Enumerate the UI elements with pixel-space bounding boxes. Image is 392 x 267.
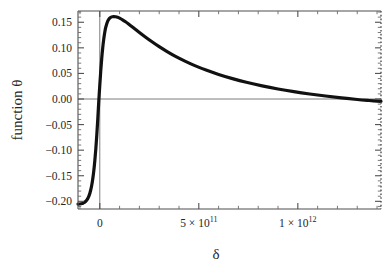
x-axis-tick-labels: 05 × 10111 × 1012 bbox=[97, 215, 317, 229]
x-axis-title: δ bbox=[212, 246, 219, 262]
x-tick-label: 1 × 1012 bbox=[279, 215, 317, 229]
x-tick-label: 0 bbox=[97, 217, 103, 229]
theta-function-plot: 0.150.100.050.00−0.05−0.10−0.15−0.20 05 … bbox=[0, 0, 392, 267]
plot-background bbox=[78, 11, 381, 209]
y-tick-label: −0.10 bbox=[45, 144, 72, 156]
chart-figure: 0.150.100.050.00−0.05−0.10−0.15−0.20 05 … bbox=[0, 0, 392, 267]
x-tick-label: 5 × 1011 bbox=[180, 215, 217, 229]
y-tick-label: −0.20 bbox=[45, 195, 72, 207]
y-tick-label: 0.15 bbox=[52, 16, 72, 28]
y-tick-label: −0.05 bbox=[45, 119, 72, 131]
y-axis-title: function θ bbox=[9, 80, 25, 141]
y-axis-tick-labels: 0.150.100.050.00−0.05−0.10−0.15−0.20 bbox=[45, 16, 72, 207]
y-tick-label: 0.00 bbox=[52, 93, 72, 105]
y-tick-label: −0.15 bbox=[45, 170, 72, 182]
y-tick-label: 0.05 bbox=[52, 67, 72, 79]
y-tick-label: 0.10 bbox=[52, 42, 72, 54]
